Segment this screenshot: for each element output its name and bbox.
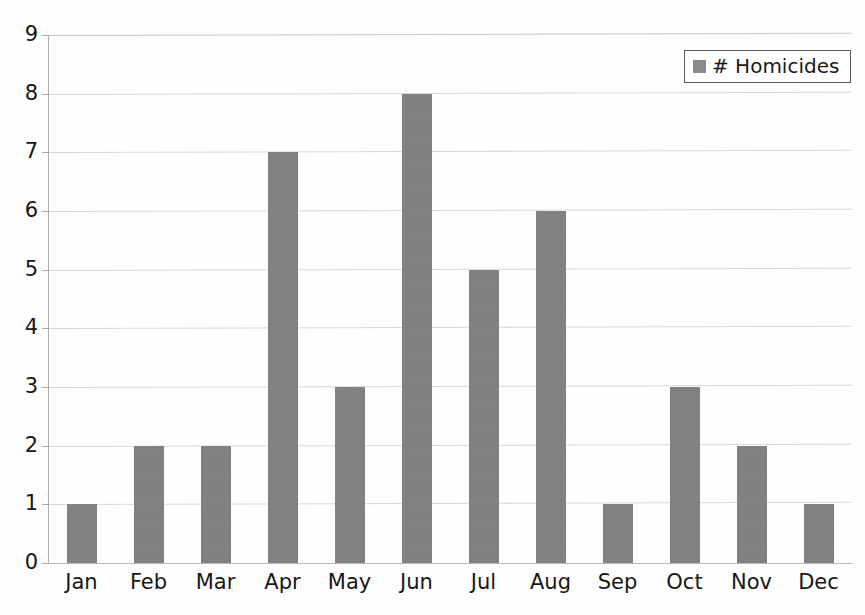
bar bbox=[469, 270, 499, 563]
y-axis-tick-label: 2 bbox=[12, 435, 38, 456]
y-axis-tick-label: 6 bbox=[12, 200, 38, 221]
chart-legend: # Homicides bbox=[684, 50, 851, 83]
bar-series-homicides bbox=[48, 35, 852, 563]
legend-entry-label: # Homicides bbox=[712, 55, 839, 77]
y-axis-tick-label: 9 bbox=[12, 24, 38, 45]
bar bbox=[603, 504, 633, 563]
y-axis-tick bbox=[42, 563, 49, 564]
y-axis-tick-label: 1 bbox=[12, 493, 38, 514]
bar bbox=[67, 504, 97, 563]
x-axis-tick-label: Dec bbox=[779, 568, 859, 596]
bar bbox=[201, 446, 231, 563]
bar bbox=[737, 446, 767, 563]
bar-chart: 0123456789 JanFebMarAprMayJunJulAugSepOc… bbox=[0, 0, 865, 615]
legend-swatch-icon bbox=[693, 60, 706, 73]
bar bbox=[134, 446, 164, 563]
bar bbox=[536, 211, 566, 563]
y-axis-tick-label: 8 bbox=[12, 83, 38, 104]
y-axis-tick-label: 4 bbox=[12, 317, 38, 338]
x-axis-line bbox=[48, 563, 852, 564]
y-axis-tick-label: 5 bbox=[12, 259, 38, 280]
y-axis-tick-label: 7 bbox=[12, 141, 38, 162]
y-axis-tick-label: 0 bbox=[12, 552, 38, 573]
bar bbox=[268, 152, 298, 563]
y-axis-tick-label: 3 bbox=[12, 376, 38, 397]
bar bbox=[804, 504, 834, 563]
x-axis-tick-labels: JanFebMarAprMayJunJulAugSepOctNovDec bbox=[48, 568, 852, 602]
bar bbox=[335, 387, 365, 563]
bar bbox=[402, 94, 432, 563]
bar bbox=[670, 387, 700, 563]
